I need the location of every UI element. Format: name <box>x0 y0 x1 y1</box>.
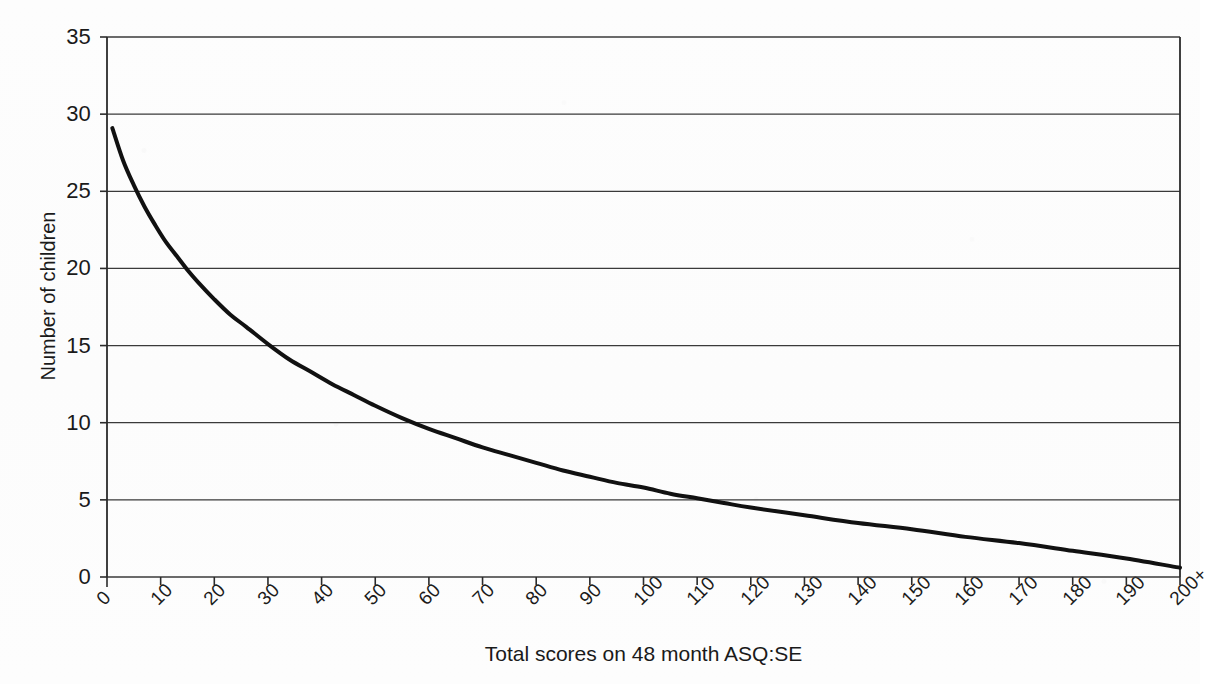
x-axis-title: Total scores on 48 month ASQ:SE <box>107 643 1180 664</box>
gridlines <box>100 37 1180 577</box>
axis-frame <box>107 37 1180 577</box>
x-axis-tick-marks <box>107 577 1180 587</box>
series-line-number-of-children <box>112 128 1180 568</box>
